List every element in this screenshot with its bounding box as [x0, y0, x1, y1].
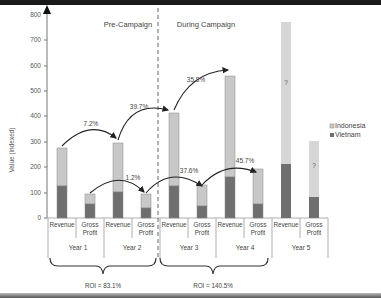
bar-y3-revenue-vietnam	[169, 186, 179, 218]
y-tick-400: 400	[30, 112, 41, 119]
bottom-edge-band	[0, 293, 381, 298]
phase-braces	[50, 258, 268, 274]
svg-text:Gross: Gross	[82, 221, 99, 228]
y-tick-500: 500	[30, 87, 41, 94]
y-tick-0: 0	[37, 214, 41, 221]
category-labels: Revenue GrossProfit Revenue GrossProfit …	[49, 221, 322, 236]
bar-y1-gp-vietnam	[85, 204, 95, 218]
y-tick-800: 800	[30, 11, 41, 18]
bar-y1-revenue-vietnam	[57, 186, 67, 218]
axis-arrow-icon	[43, 5, 51, 14]
growth-label-rev-y2-y3: 39.7%	[130, 103, 149, 110]
svg-text:Gross: Gross	[194, 221, 211, 228]
phase-label-during: During Campaign	[177, 20, 235, 29]
year-labels: Year 1 Year 2 Year 3 Year 4 Year 5	[69, 244, 311, 251]
projected-marker-y5-gp: ?	[312, 162, 316, 169]
bar-y4-revenue-indonesia	[225, 76, 235, 177]
bar-y1-revenue-indonesia	[57, 148, 67, 186]
svg-text:Revenue: Revenue	[161, 221, 187, 228]
svg-text:Revenue: Revenue	[105, 221, 131, 228]
bar-y2-gp-vietnam	[141, 208, 151, 218]
y-tick-300: 300	[30, 138, 41, 145]
bar-y5-revenue-vietnam	[281, 164, 291, 218]
svg-text:Revenue: Revenue	[273, 221, 299, 228]
growth-label-rev-y1-y2: 7.2%	[84, 120, 99, 127]
year-label-3: Year 3	[180, 244, 199, 251]
y-axis: 0 100 200 300 400 500 600 700 800 Value …	[8, 5, 51, 221]
roi-pre-campaign: ROI = 83.1%	[85, 282, 122, 289]
bar-y2-revenue-indonesia	[113, 143, 123, 192]
growth-label-gp-y2-y3: 37.6%	[180, 167, 199, 174]
bar-y4-gp-vietnam	[253, 204, 263, 218]
bar-y4-gp-indonesia	[253, 169, 263, 204]
bar-y5-gp-vietnam	[309, 197, 319, 218]
year-label-1: Year 1	[69, 244, 88, 251]
svg-text:Revenue: Revenue	[49, 221, 75, 228]
svg-text:Profit: Profit	[83, 229, 98, 236]
legend-label-vietnam: Vietnam	[335, 131, 361, 138]
svg-text:Profit: Profit	[307, 229, 322, 236]
bar-y4-revenue-vietnam	[225, 177, 235, 218]
svg-text:Gross: Gross	[306, 221, 323, 228]
bar-y3-gp-indonesia	[197, 185, 207, 206]
svg-text:Revenue: Revenue	[217, 221, 243, 228]
svg-text:Gross: Gross	[250, 221, 267, 228]
legend: Indonesia Vietnam	[330, 122, 365, 138]
svg-text:Profit: Profit	[195, 229, 210, 236]
bar-y5-gp-indonesia	[309, 141, 319, 197]
y-tick-700: 700	[30, 36, 41, 43]
growth-label-gp-y3-y4: 45.7%	[236, 157, 255, 164]
bar-y2-gp-indonesia	[141, 194, 151, 208]
year-label-5: Year 5	[292, 244, 311, 251]
bar-y5-revenue-indonesia	[281, 22, 291, 164]
y-tick-200: 200	[30, 163, 41, 170]
phase-label-pre: Pre-Campaign	[104, 20, 152, 29]
bar-y3-gp-vietnam	[197, 206, 207, 218]
bar-y3-revenue-indonesia	[169, 113, 179, 186]
y-axis-title: Value (indexed)	[8, 127, 16, 172]
year-label-2: Year 2	[123, 244, 142, 251]
y-tick-100: 100	[30, 189, 41, 196]
growth-label-rev-y3-y4: 35.8%	[187, 76, 206, 83]
roi-during-campaign: ROI = 140.5%	[193, 282, 233, 289]
svg-text:Gross: Gross	[138, 221, 155, 228]
growth-label-gp-y1-y2: 1.2%	[126, 174, 141, 181]
legend-swatch-indonesia	[330, 124, 334, 128]
chart-canvas: 0 100 200 300 400 500 600 700 800 Value …	[0, 0, 381, 298]
bar-y2-revenue-vietnam	[113, 192, 123, 218]
y-tick-600: 600	[30, 62, 41, 69]
bar-y1-gp-indonesia	[85, 194, 95, 204]
svg-text:Profit: Profit	[139, 229, 154, 236]
legend-swatch-vietnam	[330, 133, 334, 137]
legend-label-indonesia: Indonesia	[335, 122, 365, 129]
projected-marker-y5-revenue: ?	[284, 79, 288, 86]
year-label-4: Year 4	[236, 244, 255, 251]
svg-text:Profit: Profit	[251, 229, 266, 236]
